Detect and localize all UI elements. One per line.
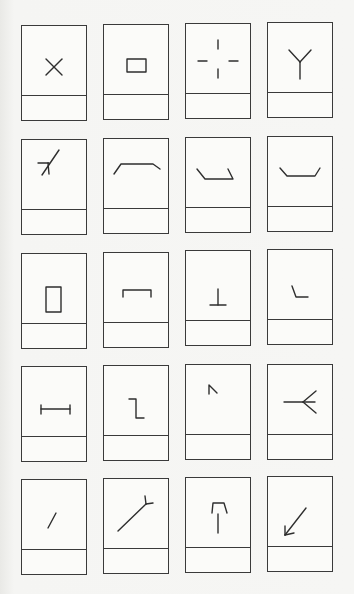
card-r5-c2 xyxy=(103,478,169,574)
caret-small-icon xyxy=(186,365,250,434)
card-label xyxy=(268,320,332,344)
card-r4-c1 xyxy=(21,366,87,462)
card-label xyxy=(22,437,86,461)
card-label xyxy=(186,321,250,345)
card-r4-c2 xyxy=(103,365,169,461)
arch-over-line-icon xyxy=(186,478,250,547)
card-label xyxy=(22,550,86,574)
card-r1-c1 xyxy=(21,25,87,121)
card-label xyxy=(268,547,332,571)
card-symbol-area xyxy=(104,25,168,95)
card-r5-c3 xyxy=(185,477,251,573)
card-symbol-area xyxy=(22,26,86,96)
bracket-down-icon xyxy=(104,253,168,322)
tall-rectangle-icon xyxy=(22,254,86,323)
card-label xyxy=(104,323,168,347)
card-r1-c4 xyxy=(267,22,333,118)
card-symbol-area xyxy=(22,140,86,210)
card-r4-c4 xyxy=(267,364,333,460)
card-r5-c4 xyxy=(267,476,333,572)
card-symbol-area xyxy=(104,479,168,549)
card-r2-c1 xyxy=(21,139,87,235)
card-label xyxy=(268,93,332,117)
slanted-corner-icon xyxy=(268,250,332,319)
i-beam-horizontal-icon xyxy=(22,367,86,436)
arrow-fork-left-icon xyxy=(268,365,332,434)
card-symbol-area xyxy=(186,251,250,321)
tray-open-icon xyxy=(268,137,332,206)
card-r2-c2 xyxy=(103,138,169,234)
card-label xyxy=(22,210,86,234)
card-symbol-area xyxy=(268,365,332,435)
card-label xyxy=(268,207,332,231)
inverted-t-icon xyxy=(186,251,250,320)
card-label xyxy=(104,95,168,119)
card-label xyxy=(186,548,250,572)
x-cross-icon xyxy=(22,26,86,95)
card-symbol-area xyxy=(22,367,86,437)
card-symbol-area xyxy=(104,366,168,436)
card-r1-c3 xyxy=(185,23,251,119)
card-symbol-area xyxy=(186,24,250,94)
card-label xyxy=(22,96,86,120)
card-label xyxy=(186,94,250,118)
card-symbol-area xyxy=(186,365,250,435)
card-r4-c3 xyxy=(185,364,251,460)
card-r3-c2 xyxy=(103,252,169,348)
card-symbol-area xyxy=(186,478,250,548)
card-symbol-area xyxy=(268,137,332,207)
card-r3-c3 xyxy=(185,250,251,346)
long-diagonal-fork-icon xyxy=(104,479,168,548)
card-label xyxy=(186,208,250,232)
card-r1-c2 xyxy=(103,24,169,120)
arrow-down-left-icon xyxy=(268,477,332,546)
trapezoid-cap-icon xyxy=(104,139,168,208)
y-fork-icon xyxy=(268,23,332,92)
tray-slanted-left-icon xyxy=(186,138,250,207)
card-symbol-area xyxy=(104,139,168,209)
card-symbol-area xyxy=(22,254,86,324)
card-r3-c1 xyxy=(21,253,87,349)
step-z-icon xyxy=(104,366,168,435)
card-symbol-area xyxy=(268,250,332,320)
card-symbol-area xyxy=(22,480,86,550)
card-symbol-area xyxy=(268,23,332,93)
card-label xyxy=(104,209,168,233)
symbol-card-sheet xyxy=(0,0,354,594)
card-symbol-area xyxy=(104,253,168,323)
card-r5-c1 xyxy=(21,479,87,575)
card-label xyxy=(104,436,168,460)
card-r2-c3 xyxy=(185,137,251,233)
card-label xyxy=(104,549,168,573)
card-symbol-area xyxy=(186,138,250,208)
card-r2-c4 xyxy=(267,136,333,232)
card-label xyxy=(268,435,332,459)
card-symbol-area xyxy=(268,477,332,547)
broken-crosshair-icon xyxy=(186,24,250,93)
short-diagonal-icon xyxy=(22,480,86,549)
diagonal-with-tick-icon xyxy=(22,140,86,209)
card-label xyxy=(22,324,86,348)
small-rectangle-icon xyxy=(104,25,168,94)
card-r3-c4 xyxy=(267,249,333,345)
card-label xyxy=(186,435,250,459)
